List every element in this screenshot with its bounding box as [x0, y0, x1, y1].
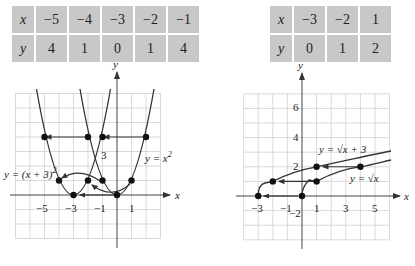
- right-graph: x y −3 −1 1 3 5 6 4 2 −2 y = √x + 3 y = …: [236, 59, 409, 249]
- right-x-axis-label: x: [403, 190, 409, 202]
- left-x-tick: 1: [129, 202, 135, 214]
- left-x-tick: −5: [36, 202, 48, 214]
- right-x-tick: −3: [251, 202, 263, 214]
- shift-amount-label: 3: [101, 149, 107, 161]
- curve-label-shifted: y = (x + 3)2: [3, 166, 56, 181]
- right-y-tick: 6: [293, 101, 299, 113]
- right-y-tick: 2: [293, 160, 299, 172]
- right-x-tick: 5: [372, 202, 378, 214]
- curve-label-x-squared: y = x2: [144, 150, 172, 164]
- left-x-tick: −1: [94, 202, 106, 214]
- curve-label-sqrt-x: y = √x: [349, 172, 379, 184]
- right-y-axis-label: y: [297, 59, 303, 71]
- right-y-tick: 4: [293, 131, 299, 143]
- left-graph: x y −5 −3 −1 1 3 y =: [3, 58, 180, 248]
- right-y-tick: −2: [289, 207, 301, 219]
- left-x-axis-label: x: [174, 189, 180, 201]
- right-x-tick: 1: [314, 202, 320, 214]
- left-y-axis-label: y: [112, 58, 118, 70]
- graphs-canvas: x y −5 −3 −1 1 3 y =: [0, 0, 415, 266]
- curve-label-sqrt-x-plus-3: y = √x + 3: [318, 143, 367, 155]
- left-grid: [16, 94, 161, 239]
- left-x-tick: −3: [65, 202, 77, 214]
- right-x-tick: 3: [343, 202, 349, 214]
